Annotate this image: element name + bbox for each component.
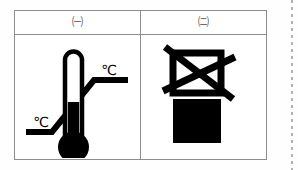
lower-limit-label: ℃	[33, 114, 49, 130]
header-label-b: ㈡	[198, 17, 209, 28]
upper-limit-label: ℃	[101, 62, 117, 78]
thermometer-bulb	[58, 132, 89, 159]
do-not-stack-pictogram	[141, 35, 267, 159]
screenshot-root: ㈠ ㈡	[0, 0, 298, 170]
table-header-cell-a: ㈠	[15, 11, 141, 34]
temperature-range-pictogram: ℃ ℃	[15, 35, 140, 159]
table-cell-b	[141, 35, 267, 159]
thermometer-symbol: ℃ ℃	[16, 36, 138, 158]
do-not-stack-symbol	[147, 41, 259, 153]
table-body-row: ℃ ℃	[15, 35, 266, 159]
pictogram-table: ㈠ ㈡	[14, 10, 267, 160]
table-cell-a: ℃ ℃	[15, 35, 141, 159]
lower-box-solid	[173, 99, 221, 143]
table-header-row: ㈠ ㈡	[15, 11, 266, 35]
table-header-cell-b: ㈡	[141, 11, 267, 34]
header-label-a: ㈠	[72, 17, 83, 28]
dotted-edge-rule	[291, 0, 293, 170]
